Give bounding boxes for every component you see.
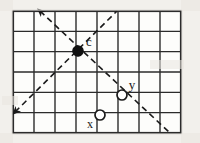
label-x: x bbox=[87, 117, 93, 131]
point-c-filled bbox=[73, 46, 83, 56]
label-y: y bbox=[129, 77, 136, 92]
figure-container: cyx bbox=[0, 0, 200, 143]
point-y-open bbox=[117, 90, 127, 100]
label-c: c bbox=[86, 34, 92, 49]
grid-diagram: cyx bbox=[0, 0, 200, 143]
point-x-open bbox=[95, 110, 105, 120]
